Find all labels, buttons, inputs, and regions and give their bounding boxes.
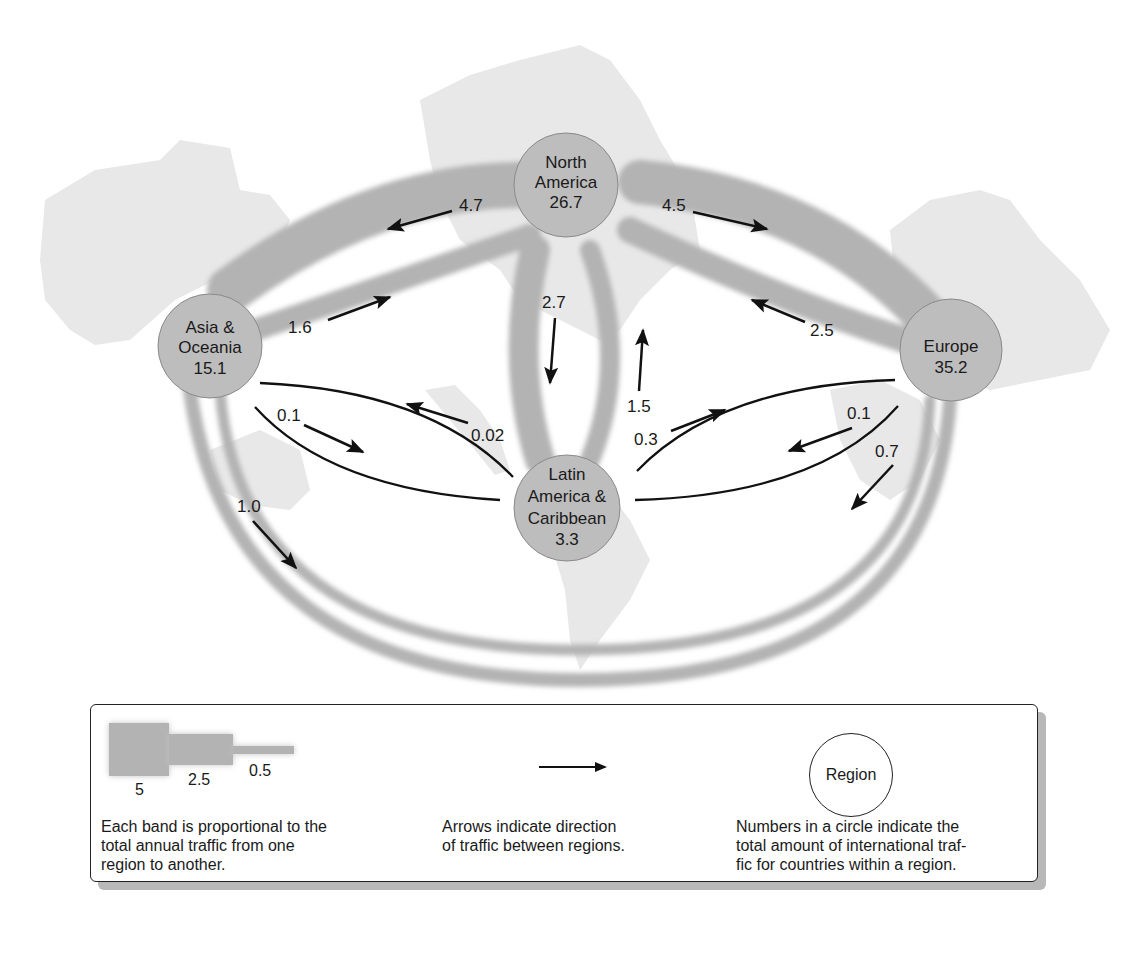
legend-band-0-5 bbox=[233, 746, 294, 754]
legend-region-label: Region bbox=[826, 766, 877, 784]
legend-band-description: Each band is proportional to the total a… bbox=[101, 817, 327, 874]
node-asia-oceania: Asia & Oceania 15.1 bbox=[158, 294, 262, 398]
legend-band-value: 2.5 bbox=[188, 771, 210, 789]
map-asia bbox=[40, 140, 290, 345]
band-na-to-la bbox=[524, 250, 540, 460]
node-europe: Europe 35.2 bbox=[900, 299, 1002, 401]
label-na-to-la: 2.7 bbox=[542, 293, 566, 312]
node-value: 3.3 bbox=[555, 530, 579, 549]
arrow-la-to-eu bbox=[671, 410, 725, 431]
legend-band-5 bbox=[109, 723, 169, 776]
arrow-la-to-na bbox=[639, 330, 643, 391]
label-eu-to-asia: 0.7 bbox=[875, 442, 899, 461]
legend-arrow-description: Arrows indicate direction of traffic bet… bbox=[442, 817, 625, 855]
node-name: Latin bbox=[549, 465, 586, 484]
node-north-america: North America 26.7 bbox=[514, 133, 618, 237]
node-name: America & bbox=[528, 487, 607, 506]
legend-region-circle: Region bbox=[809, 733, 893, 817]
legend-band-value: 5 bbox=[135, 781, 144, 799]
label-asia-to-eu: 1.0 bbox=[237, 497, 261, 516]
node-name: Oceania bbox=[178, 338, 242, 357]
node-name: Caribbean bbox=[528, 509, 606, 528]
label-na-to-eu: 4.5 bbox=[662, 196, 686, 215]
label-asia-to-la: 0.1 bbox=[277, 406, 301, 425]
label-na-to-asia: 4.7 bbox=[459, 196, 483, 215]
node-name: Asia & bbox=[185, 318, 235, 337]
legend-box: 5 2.5 0.5 Each band is proportional to t… bbox=[90, 704, 1038, 882]
node-value: 15.1 bbox=[193, 359, 226, 378]
traffic-flow-map: 4.7 1.6 4.5 2.5 2.7 1.5 0.1 0.02 0.3 0.1… bbox=[0, 0, 1139, 700]
band-la-to-na bbox=[590, 250, 610, 460]
node-name: America bbox=[535, 173, 598, 192]
label-la-to-asia: 0.02 bbox=[471, 426, 504, 445]
node-latin-america: Latin America & Caribbean 3.3 bbox=[514, 455, 620, 561]
legend-band-value: 0.5 bbox=[249, 762, 271, 780]
label-eu-to-la: 0.1 bbox=[847, 404, 871, 423]
arrow-asia-to-la bbox=[304, 425, 363, 452]
label-eu-to-na: 2.5 bbox=[810, 321, 834, 340]
node-name: Europe bbox=[924, 337, 979, 356]
node-value: 35.2 bbox=[934, 358, 967, 377]
node-value: 26.7 bbox=[549, 193, 582, 212]
label-la-to-na: 1.5 bbox=[627, 397, 651, 416]
legend-circle-description: Numbers in a circle indicate the total a… bbox=[736, 817, 966, 874]
arrow-na-to-la bbox=[550, 318, 555, 383]
label-la-to-eu: 0.3 bbox=[634, 430, 658, 449]
node-name: North bbox=[545, 153, 587, 172]
legend-arrow-icon bbox=[537, 761, 609, 773]
label-asia-to-na: 1.6 bbox=[288, 318, 312, 337]
legend-band-2-5 bbox=[169, 734, 233, 765]
